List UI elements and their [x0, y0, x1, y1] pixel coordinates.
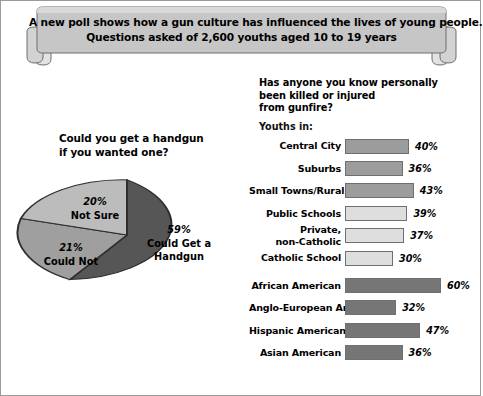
pie-label-could-get-name-1: Could Get a [147, 238, 211, 249]
bar-row: Small Towns/Rural43% [249, 180, 481, 202]
bar-title-line-3: from gunfire? [259, 102, 438, 115]
bar-track: 40% [345, 135, 481, 157]
bar-chart-rows: Central City40%Suburbs36%Small Towns/Rur… [249, 135, 481, 364]
bar-fill [345, 139, 409, 154]
bar-row: African American60% [249, 274, 481, 296]
bar-track: 30% [345, 247, 481, 269]
bar-row-label-line-2: non-Catholic [249, 236, 341, 247]
pie-label-could-not: 21% Could Not [23, 241, 119, 268]
bar-value-label: 32% [402, 302, 425, 313]
bar-value-label: 30% [399, 253, 422, 264]
bar-track: 36% [345, 157, 481, 179]
bar-row-label: Private,non-Catholic [249, 224, 345, 247]
bar-row: Anglo-European American32% [249, 297, 481, 319]
bar-row-label: Catholic School [249, 252, 345, 263]
bar-fill [345, 183, 414, 198]
banner-text: A new poll shows how a gun culture has i… [29, 15, 454, 44]
bar-value-label: 43% [420, 185, 443, 196]
bar-row: Asian American36% [249, 342, 481, 364]
pie-label-not-sure-value: 20% [83, 196, 106, 207]
bar-row-label: Hispanic American or Latino [249, 325, 345, 336]
bar-row: Suburbs36% [249, 157, 481, 179]
bar-row-label: Asian American [249, 347, 345, 358]
bar-row-label: African American [249, 280, 345, 291]
bar-fill [345, 278, 441, 293]
bar-fill [345, 228, 404, 243]
pie-label-could-not-value: 21% [59, 242, 82, 253]
pie-chart-title: Could you get a handgun if you wanted on… [59, 131, 259, 159]
bar-row-label: Suburbs [249, 163, 345, 174]
bar-track: 60% [345, 274, 481, 296]
bar-title-line-2: been killed or injured [259, 90, 438, 103]
bar-row: Private,non-Catholic37% [249, 225, 481, 247]
pie-label-could-get-name-2: Handgun [154, 251, 204, 262]
bar-title-line-1: Has anyone you know personally [259, 77, 438, 90]
bar-row-label: Central City [249, 140, 345, 151]
bar-row: Public Schools39% [249, 202, 481, 224]
bar-fill [345, 251, 393, 266]
banner-scroll: A new poll shows how a gun culture has i… [1, 5, 482, 67]
bar-row: Catholic School30% [249, 247, 481, 269]
pie-title-line-1: Could you get a handgun [59, 131, 259, 145]
bar-fill [345, 300, 396, 315]
bar-value-label: 60% [447, 280, 470, 291]
pie-title-line-2: if you wanted one? [59, 145, 259, 159]
bar-value-label: 47% [426, 325, 449, 336]
bar-track: 32% [345, 297, 481, 319]
bar-row-label: Small Towns/Rural [249, 185, 345, 196]
bar-value-label: 37% [410, 230, 433, 241]
bar-row: Hispanic American or Latino47% [249, 319, 481, 341]
bar-fill [345, 161, 403, 176]
bar-row-label: Public Schools [249, 208, 345, 219]
bar-row: Central City40% [249, 135, 481, 157]
pie-label-not-sure: 20% Not Sure [47, 195, 143, 222]
pie-label-could-get-a-handgun: 59% Could Get a Handgun [127, 223, 231, 264]
bar-track: 36% [345, 342, 481, 364]
bar-chart-title: Has anyone you know personally been kill… [259, 77, 438, 115]
bar-row-label-line-1: Private, [249, 224, 341, 235]
pie-label-could-get-value: 59% [167, 224, 190, 235]
bar-track: 39% [345, 202, 481, 224]
banner-line-1: A new poll shows how a gun culture has i… [29, 15, 454, 30]
bar-value-label: 36% [409, 347, 432, 358]
bar-row-label: Anglo-European American [249, 302, 345, 313]
bar-group-label: Youths in: [259, 121, 313, 132]
bar-value-label: 39% [413, 208, 436, 219]
bar-track: 47% [345, 319, 481, 341]
banner-line-2: Questions asked of 2,600 youths aged 10 … [29, 30, 454, 45]
pie-label-could-not-name: Could Not [44, 256, 98, 267]
bar-value-label: 40% [415, 141, 438, 152]
bar-track: 37% [345, 225, 481, 247]
pie-label-not-sure-name: Not Sure [71, 210, 120, 221]
bar-track: 43% [345, 180, 481, 202]
bar-value-label: 36% [409, 163, 432, 174]
bar-fill [345, 206, 407, 221]
bar-fill [345, 323, 420, 338]
bar-fill [345, 345, 403, 360]
